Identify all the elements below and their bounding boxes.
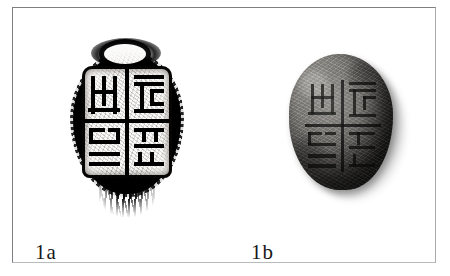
seal-tassel-fringe: [99, 184, 155, 218]
seal-script-stroke: [154, 128, 158, 142]
seal-script-stroke: [134, 109, 164, 113]
seal-script-stroke: [89, 152, 120, 156]
seal-object-photograph: [289, 54, 393, 190]
incised-stroke: [349, 82, 376, 85]
incised-stroke: [349, 146, 375, 149]
rubbing-character-field: [82, 66, 172, 178]
incised-stroke: [349, 114, 376, 117]
seal-script-stroke: [134, 75, 164, 79]
incised-stroke: [349, 164, 375, 167]
photo-cross-divider-horizontal: [305, 124, 381, 127]
incised-stroke: [311, 84, 314, 114]
incised-stroke: [325, 132, 336, 135]
figure-caption-1b: 1b: [251, 242, 274, 263]
seal-script-stroke: [150, 102, 164, 106]
incised-stroke: [349, 132, 375, 135]
incised-stroke: [308, 143, 336, 146]
incised-stroke: [308, 112, 336, 115]
seal-script-stroke: [89, 140, 120, 144]
seal-script-stroke: [142, 128, 146, 142]
rubbing-cross-divider-horizontal: [85, 119, 169, 123]
figure-plate: 1a 1b: [0, 0, 450, 276]
seal-script-stroke: [89, 162, 120, 166]
incised-stroke: [363, 96, 366, 110]
artifact-image-1b: [275, 38, 415, 213]
incised-stroke: [353, 89, 356, 115]
incised-stroke: [357, 132, 360, 145]
seal-script-stroke: [134, 128, 164, 132]
seal-script-stroke: [140, 82, 144, 112]
incised-stroke: [311, 96, 334, 99]
seal-script-stroke: [134, 82, 164, 86]
figure-caption-1a: 1a: [35, 242, 57, 263]
seal-script-stroke: [134, 162, 164, 166]
incised-stroke: [308, 164, 336, 168]
seal-script-stroke: [134, 144, 164, 148]
plate-border: 1a 1b: [12, 7, 436, 263]
seal-script-stroke: [89, 128, 105, 132]
incised-stroke: [308, 154, 336, 158]
seal-impression-rubbing: [57, 32, 197, 217]
incised-stroke: [331, 84, 334, 114]
artifact-image-1a: [57, 32, 197, 217]
seal-script-stroke: [91, 90, 117, 94]
seal-script-stroke: [88, 108, 120, 112]
seal-knob-loop-icon: [104, 44, 146, 64]
